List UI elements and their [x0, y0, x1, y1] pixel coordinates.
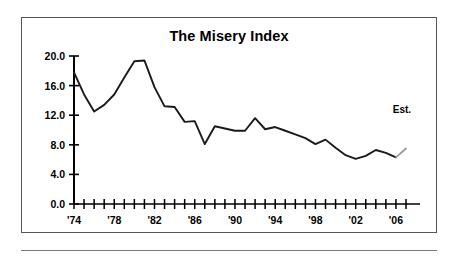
x-tick-label: '90: [228, 214, 242, 226]
y-tick-label: 12.0: [45, 109, 66, 121]
x-tick-label: '98: [308, 214, 322, 226]
y-tick-label: 0.0: [50, 198, 65, 210]
x-tick-label: '06: [389, 214, 403, 226]
x-tick-label: '74: [67, 214, 81, 226]
y-tick-label: 8.0: [50, 139, 65, 151]
misery-index-line-chart: 0.04.08.012.016.020.0 '74'78'82'86'90'94…: [22, 18, 438, 234]
estimate-annotation: Est.: [393, 104, 412, 115]
x-tick-label: '94: [268, 214, 282, 226]
footer-divider: [21, 250, 437, 251]
chart-figure: The Misery Index 0.04.08.012.016.020.0 '…: [21, 17, 437, 233]
series-line-misery-index: [74, 60, 396, 158]
x-tick-labels: '74'78'82'86'90'94'98'02'06: [67, 214, 403, 226]
y-tick-label: 20.0: [45, 50, 66, 62]
y-tick-label: 16.0: [45, 80, 66, 92]
x-tick-label: '82: [147, 214, 161, 226]
series-line-estimate: [396, 149, 406, 158]
y-tick-label: 4.0: [50, 168, 65, 180]
x-tick-label: '78: [107, 214, 121, 226]
y-tick-labels: 0.04.08.012.016.020.0: [45, 50, 66, 210]
x-tick-label: '02: [349, 214, 363, 226]
x-tick-label: '86: [188, 214, 202, 226]
